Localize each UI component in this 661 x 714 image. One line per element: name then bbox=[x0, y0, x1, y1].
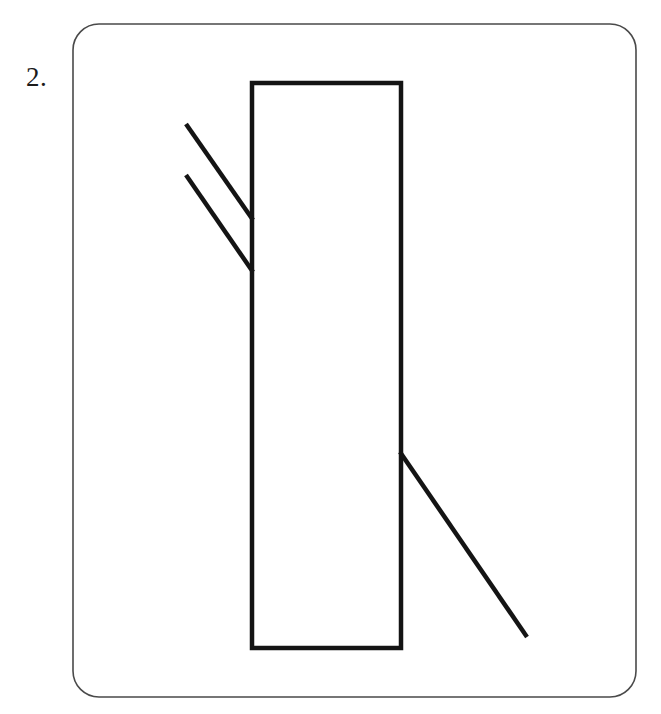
rounded-card-border bbox=[73, 24, 636, 697]
lower-diagonal-line bbox=[400, 452, 527, 637]
upper-diagonal-line-2 bbox=[186, 175, 253, 272]
main-rectangle-shape bbox=[252, 83, 401, 648]
line-drawing-figure bbox=[0, 0, 661, 714]
figure-page: 2. bbox=[0, 0, 661, 714]
upper-diagonal-line-1 bbox=[186, 124, 253, 220]
